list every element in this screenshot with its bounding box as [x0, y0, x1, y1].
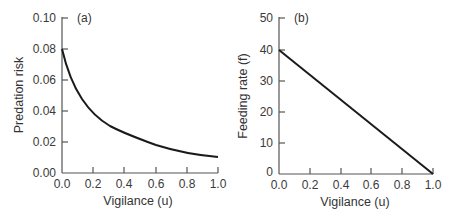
x-axis-title-b: Vigilance (u) — [320, 195, 389, 209]
x-tick-label: 1.0 — [210, 177, 227, 191]
y-tick-label: 0 — [266, 165, 273, 179]
x-tick-label: 0.6 — [363, 178, 380, 192]
x-tick-label: 0.0 — [54, 177, 71, 191]
panel-b: 50 40 30 20 10 0 0.0 0.2 0.4 0.6 0.8 1.0… — [236, 11, 442, 209]
x-tick-label: 0.6 — [148, 177, 165, 191]
x-tick-label: 1.0 — [425, 178, 442, 192]
y-tick-label: 40 — [260, 43, 274, 57]
predation-risk-curve — [62, 49, 218, 157]
x-tick-label: 0.4 — [116, 177, 133, 191]
panel-label-a: (a) — [77, 11, 92, 25]
figure: 0.10 0.08 0.06 0.04 0.02 0.00 0.0 0.2 0.… — [0, 0, 455, 217]
x-tick-label: 0.8 — [394, 178, 411, 192]
y-tick-label: 0.10 — [33, 11, 57, 25]
panel-label-b: (b) — [294, 11, 309, 25]
x-axis-title-a: Vigilance (u) — [103, 194, 172, 208]
feeding-rate-line — [279, 50, 433, 174]
y-tick-label: 10 — [260, 136, 274, 150]
x-tick-label: 0.2 — [85, 177, 102, 191]
y-axis-title-b: Feeding rate (f) — [236, 53, 250, 138]
x-tick-label: 0.0 — [271, 178, 288, 192]
x-tick-label: 0.8 — [179, 177, 196, 191]
x-tick-label: 0.4 — [333, 178, 350, 192]
y-axis-title-a: Predation risk — [12, 56, 26, 133]
y-ticks-b — [279, 18, 285, 143]
x-ticks-b — [310, 168, 433, 174]
x-ticks-a — [93, 167, 218, 173]
x-tick-label: 0.2 — [302, 178, 319, 192]
panel-a: 0.10 0.08 0.06 0.04 0.02 0.00 0.0 0.2 0.… — [12, 11, 227, 208]
y-tick-label: 50 — [260, 11, 274, 25]
y-tick-label: 30 — [260, 74, 274, 88]
y-tick-label: 0.04 — [33, 104, 57, 118]
y-tick-label: 20 — [260, 105, 274, 119]
y-tick-label: 0.02 — [33, 135, 57, 149]
y-tick-label: 0.08 — [33, 42, 57, 56]
y-tick-label: 0.06 — [33, 73, 57, 87]
y-ticks-a — [62, 18, 68, 142]
